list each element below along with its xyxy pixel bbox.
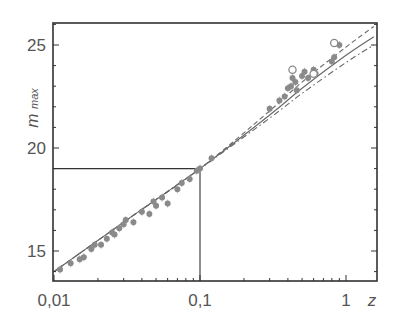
model-curves bbox=[54, 26, 374, 271]
y-tick-label: 20 bbox=[27, 139, 46, 158]
data-point bbox=[104, 236, 110, 242]
data-point bbox=[165, 201, 171, 207]
data-point bbox=[81, 254, 87, 260]
data-point bbox=[153, 203, 159, 209]
data-point bbox=[267, 106, 273, 112]
data-point bbox=[197, 166, 203, 172]
y-axis-title: m max bbox=[23, 88, 42, 128]
data-point bbox=[292, 79, 298, 85]
chart-canvas: 0,010,11 152025 z m max bbox=[0, 0, 402, 325]
data-point bbox=[276, 98, 282, 104]
data-point bbox=[288, 83, 294, 89]
data-point-open bbox=[331, 39, 338, 46]
y-axis-title-subscript: max bbox=[28, 88, 40, 109]
data-point bbox=[294, 87, 300, 93]
data-point bbox=[187, 176, 193, 182]
data-point bbox=[209, 155, 215, 161]
data-point bbox=[139, 209, 145, 215]
data-point bbox=[302, 69, 308, 75]
data-point bbox=[174, 186, 180, 192]
curve-model-solid bbox=[54, 37, 374, 272]
data-point bbox=[57, 267, 63, 273]
data-point bbox=[92, 242, 98, 248]
y-axis-title-main: m bbox=[23, 114, 42, 128]
curve-model-dashed bbox=[54, 26, 374, 271]
data-point bbox=[282, 94, 288, 100]
data-point bbox=[146, 211, 152, 217]
data-point bbox=[159, 194, 165, 200]
data-point bbox=[116, 225, 122, 231]
y-tick-label: 15 bbox=[27, 242, 46, 261]
x-tick-label: 0,01 bbox=[37, 291, 70, 310]
data-point bbox=[123, 217, 129, 223]
x-tick-label: 1 bbox=[341, 291, 350, 310]
data-point bbox=[179, 180, 185, 186]
data-point-open bbox=[289, 66, 296, 73]
data-point bbox=[331, 54, 337, 60]
y-tick-label: 25 bbox=[27, 36, 46, 55]
data-point bbox=[130, 219, 136, 225]
data-point-open bbox=[310, 70, 317, 77]
data-point bbox=[68, 260, 74, 266]
x-axis-tick-labels: 0,010,11 bbox=[37, 291, 350, 310]
x-axis-title: z bbox=[367, 291, 377, 310]
data-point bbox=[112, 232, 118, 238]
data-point bbox=[98, 242, 104, 248]
y-axis-tick-labels: 152025 bbox=[27, 36, 46, 261]
x-tick-label: 0,1 bbox=[188, 291, 212, 310]
